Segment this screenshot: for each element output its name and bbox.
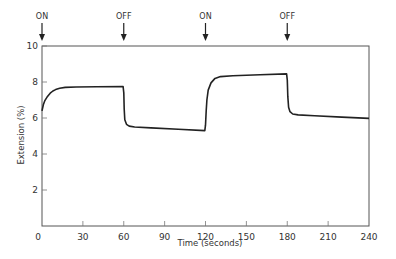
event-markers: ONOFFONOFF [36,12,296,41]
x-tick-label: 60 [118,232,130,242]
event-marker-on: ON [199,12,211,41]
event-label: OFF [116,12,132,21]
y-axis-title: Extension (%) [16,105,26,164]
y-axis-ticks: 246810 [27,41,47,195]
y-tick-label: 4 [32,149,38,159]
plot-frame [42,46,369,226]
event-marker-on: ON [36,12,48,41]
x-axis-title: Time (seconds) [177,238,243,248]
arrow-down-icon [284,34,290,41]
arrow-down-icon [39,34,45,41]
x-tick-label: 240 [360,232,377,242]
event-marker-off: OFF [116,12,132,41]
event-label: ON [199,12,211,21]
x-tick-label: 210 [320,232,337,242]
x-tick-label: 180 [279,232,296,242]
event-marker-off: OFF [280,12,296,41]
extension-curve [42,74,369,131]
y-tick-label: 2 [32,185,38,195]
extension-time-chart: 246810 0306090120150180210240 ONOFFONOFF… [0,0,396,259]
event-label: ON [36,12,48,21]
arrow-down-icon [121,34,127,41]
x-tick-label: 0 [35,232,41,242]
arrow-down-icon [203,34,209,41]
event-label: OFF [280,12,296,21]
y-tick-label: 10 [27,41,39,51]
x-tick-label: 90 [159,232,171,242]
y-tick-label: 6 [32,113,38,123]
x-tick-label: 30 [77,232,89,242]
y-tick-label: 8 [32,77,38,87]
plot-border [42,46,369,226]
